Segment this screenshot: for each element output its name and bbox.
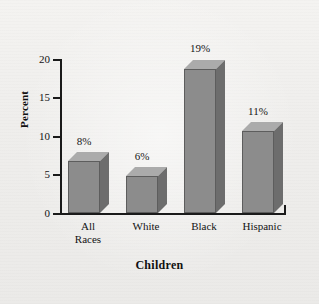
- x-axis-title: Children: [0, 258, 319, 273]
- bar-value-black: 19%: [177, 42, 223, 54]
- y-tick-20: [53, 59, 60, 61]
- bar-value-white: 6%: [119, 150, 165, 162]
- y-tick-10: [53, 136, 60, 138]
- y-tick-0: [53, 213, 60, 215]
- bar-group-white[interactable]: [126, 167, 167, 213]
- bar-chart: 20 15 10 5 0 Percent 8% 6% 19%: [0, 0, 319, 304]
- bar-front-face-all-races: [68, 161, 100, 213]
- y-axis-title: Percent: [18, 91, 30, 128]
- y-tick-label-20: 20: [26, 53, 50, 65]
- bar-value-hispanic: 11%: [235, 105, 281, 117]
- bar-side-face-hispanic: [274, 122, 283, 213]
- x-category-label-hispanic: Hispanic: [225, 220, 299, 233]
- x-category-label-all-races-line2: Races: [51, 233, 125, 246]
- bar-front-face-white: [126, 176, 158, 213]
- bar-group-all-races[interactable]: [68, 152, 109, 213]
- bar-front-face-black: [184, 69, 216, 213]
- y-tick-15: [53, 97, 60, 99]
- bar-value-all-races: 8%: [61, 135, 107, 147]
- y-tick-5: [53, 174, 60, 176]
- y-tick-label-5: 5: [26, 168, 50, 180]
- bar-group-hispanic[interactable]: [242, 122, 283, 213]
- bar-side-face-all-races: [100, 152, 109, 213]
- x-axis-line: [60, 213, 286, 215]
- x-category-label-hispanic-line1: Hispanic: [225, 220, 299, 233]
- plot-area: 20 15 10 5 0 Percent 8% 6% 19%: [0, 0, 319, 304]
- bar-front-face-hispanic: [242, 131, 274, 213]
- y-tick-label-10: 10: [26, 130, 50, 142]
- bar-group-black[interactable]: [184, 60, 225, 213]
- x-axis-end-tick: [284, 205, 286, 215]
- bar-side-face-black: [216, 60, 225, 213]
- y-tick-label-0: 0: [26, 207, 50, 219]
